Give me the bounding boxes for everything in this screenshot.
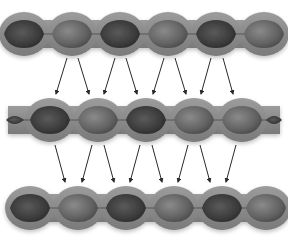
arrows-middle-to-bottom xyxy=(55,145,236,182)
strand-top xyxy=(0,12,288,56)
arrow-icon xyxy=(104,58,115,94)
arrow-icon xyxy=(126,58,137,94)
arrow-icon xyxy=(178,145,188,182)
diagram-canvas xyxy=(0,0,288,244)
arrow-icon xyxy=(200,145,210,182)
arrow-icon xyxy=(78,58,89,94)
arrow-icon xyxy=(175,58,186,94)
arrow-icon xyxy=(55,145,65,182)
strand-middle xyxy=(6,98,282,142)
arrow-icon xyxy=(56,58,67,94)
arrow-icon xyxy=(223,58,233,94)
arrow-icon xyxy=(104,145,114,182)
arrow-icon xyxy=(153,58,164,94)
strand-bottom xyxy=(5,186,288,230)
arrow-icon xyxy=(201,58,211,94)
arrow-icon xyxy=(226,145,236,182)
arrow-icon xyxy=(82,145,92,182)
strands-layer xyxy=(0,12,288,230)
arrow-icon xyxy=(130,145,140,182)
arrow-icon xyxy=(152,145,162,182)
arrows-top-to-middle xyxy=(56,58,233,94)
